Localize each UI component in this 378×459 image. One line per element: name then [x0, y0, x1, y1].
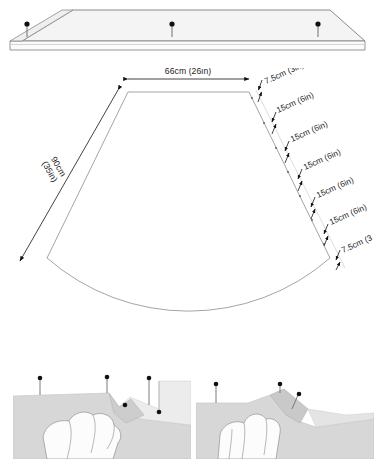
segment-label: 7.5cm (3 [340, 233, 374, 255]
step-photo-left [13, 363, 191, 459]
pin-icon [123, 403, 128, 408]
pin-icon [157, 410, 162, 415]
waistband-top-face [22, 10, 365, 41]
waistband-panel [0, 0, 378, 70]
segment-label: 15cm (6in) [275, 90, 315, 114]
segment-label: 15cm (6in) [315, 175, 355, 199]
skirt-outline [47, 92, 330, 311]
top-dimension-label: 66cm (26in) [165, 68, 212, 76]
segment-label: 7.5cm (3in) [263, 68, 305, 86]
segment-label: 15cm (6in) [302, 147, 342, 171]
skirt-pattern-panel: 66cm (26in) 90cm (35in) [0, 68, 378, 358]
segment-label: 15cm (6in) [289, 119, 329, 143]
step-photo-right [196, 363, 374, 459]
waistband-front-edge [10, 41, 365, 50]
segment-label: 15cm (6in) [328, 202, 368, 226]
